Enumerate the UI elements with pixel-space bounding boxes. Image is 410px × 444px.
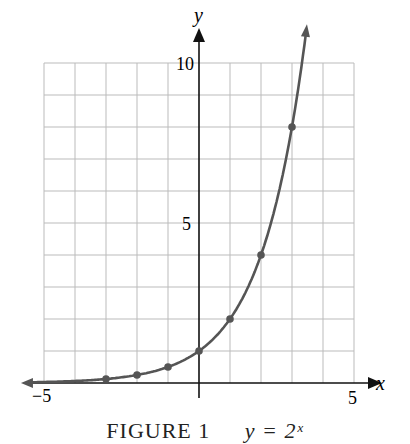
y-tick-max: 10 bbox=[176, 54, 194, 74]
x-axis-label: x bbox=[375, 372, 385, 394]
x-tick-min: −5 bbox=[32, 386, 51, 406]
y-tick-mid: 5 bbox=[182, 214, 191, 234]
figure-caption: FIGURE 1 y = 2ˣ bbox=[0, 418, 410, 444]
curve-2-to-the-x bbox=[29, 33, 306, 382]
figure-function: y = 2ˣ bbox=[245, 418, 304, 443]
x-tick-max: 5 bbox=[348, 388, 357, 408]
figure-number: FIGURE 1 bbox=[106, 418, 210, 443]
y-axis-label: y bbox=[192, 4, 203, 27]
